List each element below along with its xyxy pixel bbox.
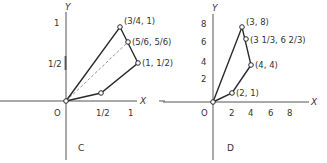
dashed-line-c: [66, 42, 128, 101]
panel-d: Y X O 2 4 6 8 8 6 4 2 (3, 8) (3 1/3, 6 2…: [163, 3, 318, 160]
panel-label-c: C: [78, 143, 84, 153]
x-tick-c-half: 1/2: [96, 108, 110, 118]
y-tick-c-one: 1: [54, 18, 59, 28]
vertex-c-3: [136, 61, 141, 66]
vertex-c-1: [118, 25, 123, 30]
point-label-d-1: (3, 8): [246, 17, 269, 27]
y-axis-label-d: Y: [212, 3, 219, 13]
x-tick-d-4: 4: [248, 108, 253, 118]
x-tick-d-6: 6: [268, 108, 273, 118]
vertex-c-4: [99, 91, 104, 96]
y-tick-d-8: 8: [201, 19, 206, 29]
panel-label-d: D: [227, 143, 234, 153]
vertex-d-3: [249, 63, 254, 68]
point-label-c-3: (1, 1/2): [142, 58, 173, 68]
origin-label-d: O: [201, 108, 208, 118]
point-label-c-1: (3/4, 1): [124, 16, 155, 26]
x-tick-c-one: 1: [128, 108, 133, 118]
x-tick-d-8: 8: [287, 108, 292, 118]
x-axis-label-c: X: [139, 96, 147, 106]
x-axis-label-d: X: [310, 97, 318, 107]
point-label-d-4: (2, 1): [236, 88, 259, 98]
point-label-d-2: (3 1/3, 6 2/3): [250, 35, 306, 45]
x-tick-d-2: 2: [229, 108, 234, 118]
y-tick-d-4: 4: [201, 57, 206, 67]
polygon-c: [66, 27, 138, 101]
y-axis-label-c: Y: [65, 2, 72, 12]
vertex-d-2: [244, 37, 249, 42]
point-label-c-2: (5/6, 5/6): [132, 37, 171, 47]
origin-label-c: O: [54, 108, 61, 118]
vertex-c-2: [126, 40, 131, 45]
vertex-d-4: [230, 91, 235, 96]
vertex-d-1: [240, 25, 245, 30]
vertex-origin-c: [64, 99, 69, 104]
point-label-d-3: (4, 4): [255, 60, 278, 70]
diagram-canvas: Y X O 1/2 1 1 1/2 (3/4, 1) (5/6, 5/6) (1…: [0, 0, 327, 163]
y-tick-d-6: 6: [201, 37, 206, 47]
y-tick-d-2: 2: [201, 74, 206, 84]
panel-c: Y X O 1/2 1 1 1/2 (3/4, 1) (5/6, 5/6) (1…: [0, 2, 173, 160]
y-tick-c-half: 1/2: [48, 59, 62, 69]
vertex-origin-d: [211, 100, 216, 105]
